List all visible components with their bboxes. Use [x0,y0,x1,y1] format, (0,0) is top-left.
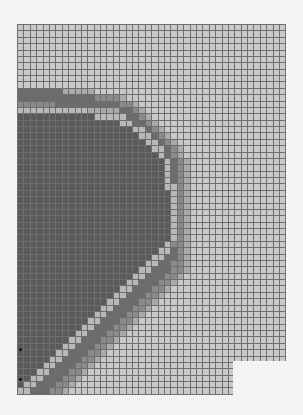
point-marker-icon [19,378,22,381]
grid-notch-blank [233,361,293,415]
cell-grid-heatmap [17,24,286,395]
point-marker-icon [19,348,22,351]
